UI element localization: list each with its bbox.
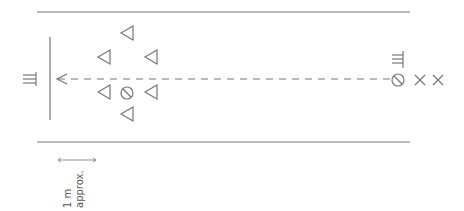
triangle-icon [145, 85, 157, 99]
circle-slash-line [123, 89, 131, 97]
triangle-icon [121, 107, 133, 121]
field-diagram [0, 0, 464, 211]
left-comb-icon [23, 72, 36, 86]
circle-slash-line [394, 76, 402, 84]
scale-label-1m: 1 m [62, 189, 73, 208]
scale-label-approx: approx. [74, 170, 85, 208]
right-comb-icon [392, 51, 403, 68]
triangle-icon [98, 85, 110, 99]
triangle-icon [145, 50, 157, 64]
triangle-icon [98, 50, 110, 64]
triangle-icon [121, 26, 133, 40]
